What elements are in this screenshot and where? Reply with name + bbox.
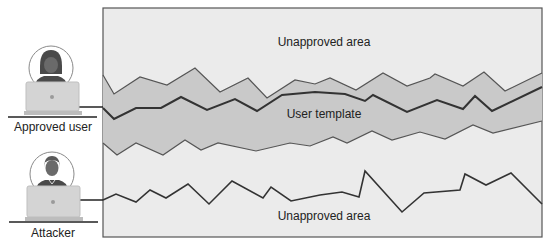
user-template-diagram: Unapproved area User template Unapproved… [0, 0, 545, 244]
attacker-label: Attacker [31, 226, 75, 240]
bottom-unapproved-label: Unapproved area [278, 209, 371, 223]
approved-user-label: Approved user [14, 120, 92, 134]
user-template-label: User template [287, 107, 362, 121]
laptop-icon [25, 186, 83, 221]
top-unapproved-label: Unapproved area [278, 35, 371, 49]
attacker-actor: Attacker [9, 152, 103, 240]
laptop-icon [24, 82, 82, 115]
approved-user-actor: Approved user [8, 46, 103, 134]
